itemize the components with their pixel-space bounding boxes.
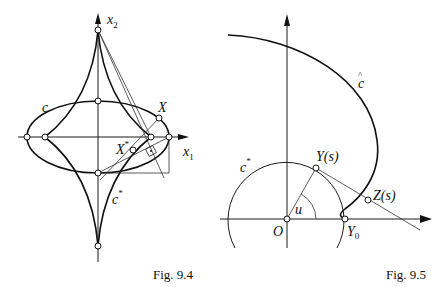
- label-y-s: Y(s): [316, 149, 339, 165]
- fig-9-5: c ^ c* Y(s) Z(s) O u Y0 Fig. 9.5: [220, 14, 432, 282]
- point-top-cusp: [95, 27, 101, 33]
- label-angle-u: u: [295, 202, 302, 217]
- point-ellipse-bottom: [95, 170, 101, 176]
- caption-fig-9-5: Fig. 9.5: [386, 267, 426, 282]
- label-origin: O: [273, 224, 283, 239]
- label-x-star: X*: [115, 139, 130, 157]
- label-x2: x2: [106, 12, 118, 30]
- x2-arrow-icon: [95, 13, 101, 24]
- circle-c-star: [228, 162, 344, 248]
- point-x: [156, 115, 162, 121]
- label-x: X: [157, 100, 167, 115]
- tangent-line-2: [98, 30, 151, 137]
- label-c-star: c*: [240, 156, 251, 175]
- horizontal-arrow-icon: [420, 215, 432, 223]
- label-y0: Y0: [347, 224, 360, 241]
- point-ellipse-top: [95, 98, 101, 104]
- point-y0: [342, 216, 348, 222]
- figure-canvas: x2 x1 c X X* c* Fig. 9.4 c ^ c* Y(: [0, 0, 443, 287]
- label-c: c: [42, 100, 49, 115]
- point-ellipse-left: [24, 134, 30, 140]
- label-z-s: Z(s): [373, 188, 396, 204]
- point-y-s: [313, 165, 319, 171]
- x1-arrow-icon: [178, 134, 189, 140]
- label-c-star: c*: [112, 188, 123, 207]
- fig-9-4: x2 x1 c X X* c* Fig. 9.4: [18, 12, 194, 282]
- label-x1: x1: [182, 144, 194, 162]
- point-bottom-cusp: [95, 243, 101, 249]
- angle-arc-u: [301, 194, 316, 219]
- point-right-cusp: [148, 134, 154, 140]
- right-angle-dot: [150, 150, 152, 152]
- point-origin: [284, 216, 290, 222]
- point-z-s: [365, 197, 371, 203]
- point-left-cusp: [42, 134, 48, 140]
- caption-fig-9-4: Fig. 9.4: [153, 267, 194, 282]
- vertical-arrow-icon: [284, 14, 290, 26]
- point-x-star: [130, 147, 136, 153]
- point-ellipse-right: [166, 134, 172, 140]
